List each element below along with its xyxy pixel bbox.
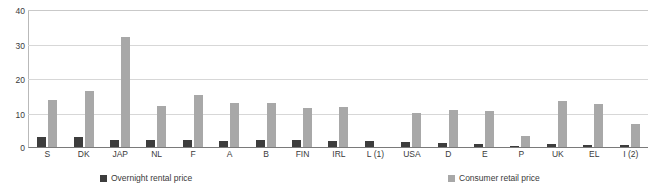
bar-group — [65, 10, 101, 147]
bar-group — [429, 10, 465, 147]
x-axis-label: E — [467, 150, 503, 159]
bar — [256, 140, 265, 147]
x-axis-label: P — [503, 150, 539, 159]
x-axis-label: UK — [540, 150, 576, 159]
x-axis-label: I (2) — [613, 150, 649, 159]
bar-group — [466, 10, 502, 147]
bar — [267, 103, 276, 147]
bar — [85, 91, 94, 147]
x-axis-label: IRL — [321, 150, 357, 159]
bar-groups — [29, 10, 648, 147]
bar — [594, 104, 603, 147]
bar-group — [393, 10, 429, 147]
bar-group — [539, 10, 575, 147]
y-axis-tick-40: 40 — [1, 7, 25, 16]
bar — [292, 140, 301, 147]
legend-label-1: Overnight rental price — [111, 174, 192, 183]
x-axis-label: JAP — [102, 150, 138, 159]
bar — [48, 100, 57, 147]
legend-item-overnight-rental-price: Overnight rental price — [100, 174, 192, 183]
x-axis-label: DK — [65, 150, 101, 159]
bar-group — [284, 10, 320, 147]
bar — [401, 142, 410, 147]
y-axis-tick-30: 30 — [1, 42, 25, 51]
x-axis-label: F — [175, 150, 211, 159]
bar — [521, 136, 530, 147]
x-axis-label: USA — [394, 150, 430, 159]
bar — [412, 113, 421, 147]
bar — [219, 141, 228, 148]
bar-group — [211, 10, 247, 147]
y-axis-tick-10: 10 — [1, 111, 25, 120]
bar-group — [502, 10, 538, 147]
bar — [620, 145, 629, 147]
bar — [438, 143, 447, 147]
bar — [230, 103, 239, 147]
x-axis-label: L (1) — [357, 150, 393, 159]
bar — [339, 107, 348, 147]
bar — [510, 146, 519, 147]
bar-group — [138, 10, 174, 147]
bar — [547, 144, 556, 147]
bar — [365, 141, 374, 147]
bar-group — [102, 10, 138, 147]
bar-group — [320, 10, 356, 147]
y-axis-tick-20: 20 — [1, 76, 25, 85]
x-axis-label: A — [211, 150, 247, 159]
bar — [583, 145, 592, 147]
bar — [121, 37, 130, 147]
bar — [194, 95, 203, 147]
bar — [303, 108, 312, 147]
bar — [328, 141, 337, 148]
bar-group — [575, 10, 611, 147]
bar-chart: 40 30 20 10 0 SDKJAPNLFABFINIRLL (1)USAD… — [0, 0, 658, 196]
bar — [74, 137, 83, 147]
bar — [474, 144, 483, 147]
plot-area — [28, 10, 648, 148]
bar-group — [247, 10, 283, 147]
legend-label-2: Consumer retail price — [459, 174, 540, 183]
bar-group — [612, 10, 648, 147]
y-axis-tick-0: 0 — [1, 144, 25, 153]
bar — [485, 111, 494, 147]
bar — [183, 140, 192, 147]
x-axis-label: D — [430, 150, 466, 159]
bar — [146, 140, 155, 147]
x-axis-label: EL — [576, 150, 612, 159]
bar — [110, 140, 119, 147]
bar-group — [29, 10, 65, 147]
x-axis-label: NL — [138, 150, 174, 159]
chart-legend: Overnight rental price Consumer retail p… — [0, 174, 658, 186]
legend-item-consumer-retail-price: Consumer retail price — [448, 174, 540, 183]
grey-square-icon — [448, 175, 455, 182]
bar — [449, 110, 458, 147]
bar — [558, 101, 567, 147]
x-axis-label: B — [248, 150, 284, 159]
bar — [37, 137, 46, 147]
bar — [157, 106, 166, 147]
x-axis-labels: SDKJAPNLFABFINIRLL (1)USADEPUKELI (2) — [29, 150, 649, 159]
bar-group — [357, 10, 393, 147]
dark-square-icon — [100, 175, 107, 182]
bar-group — [175, 10, 211, 147]
x-axis-label: FIN — [284, 150, 320, 159]
x-axis-label: S — [29, 150, 65, 159]
bar — [631, 124, 640, 147]
